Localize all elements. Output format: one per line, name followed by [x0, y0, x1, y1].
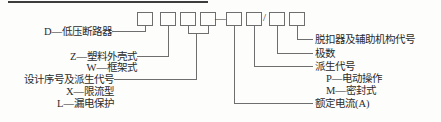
leader-box1-to-label-d [112, 26, 146, 32]
leader-box4-to-merge [197, 26, 209, 34]
box-8 [290, 13, 305, 26]
box-1 [138, 13, 153, 26]
label-w: W—框架式 [87, 62, 137, 73]
leader-box3-to-merge [189, 26, 197, 34]
label-poles: 极数 [315, 48, 335, 59]
label-derivative: 派生代号 [315, 61, 355, 72]
dash-separator-glyph: — [215, 13, 226, 24]
box-6 [247, 13, 262, 26]
slash-separator-glyph: / [263, 12, 266, 23]
label-design-serial: 设计序号及派生代号 [24, 74, 114, 85]
box-2 [161, 13, 176, 26]
label-m: M—密封式 [326, 85, 376, 96]
label-d: D—低压断路器 [44, 26, 112, 37]
label-l: L—漏电保护 [57, 98, 114, 109]
label-p: P—电动操作 [326, 73, 382, 84]
box-4 [201, 13, 216, 26]
label-rated-current: 额定电流(A) [315, 98, 370, 109]
label-release-aux: 脱扣器及辅助机构代号 [315, 34, 415, 45]
leader-box5-to-label-rated-current [235, 26, 314, 104]
diagram-canvas: — / D—低压断路器 Z—塑料外壳式 W—框架式 设计序号及派生代号 X—限流… [0, 0, 441, 122]
box-5 [227, 13, 242, 26]
box-3 [181, 13, 196, 26]
leader-box2-to-label-z [137, 26, 169, 57]
leader-box6-to-label-derivative [255, 26, 314, 67]
label-x: X—限流型 [66, 86, 114, 97]
box-7 [270, 13, 285, 26]
label-z: Z—塑料外壳式 [70, 51, 137, 62]
leader-box8-to-label-release-aux [298, 26, 314, 40]
